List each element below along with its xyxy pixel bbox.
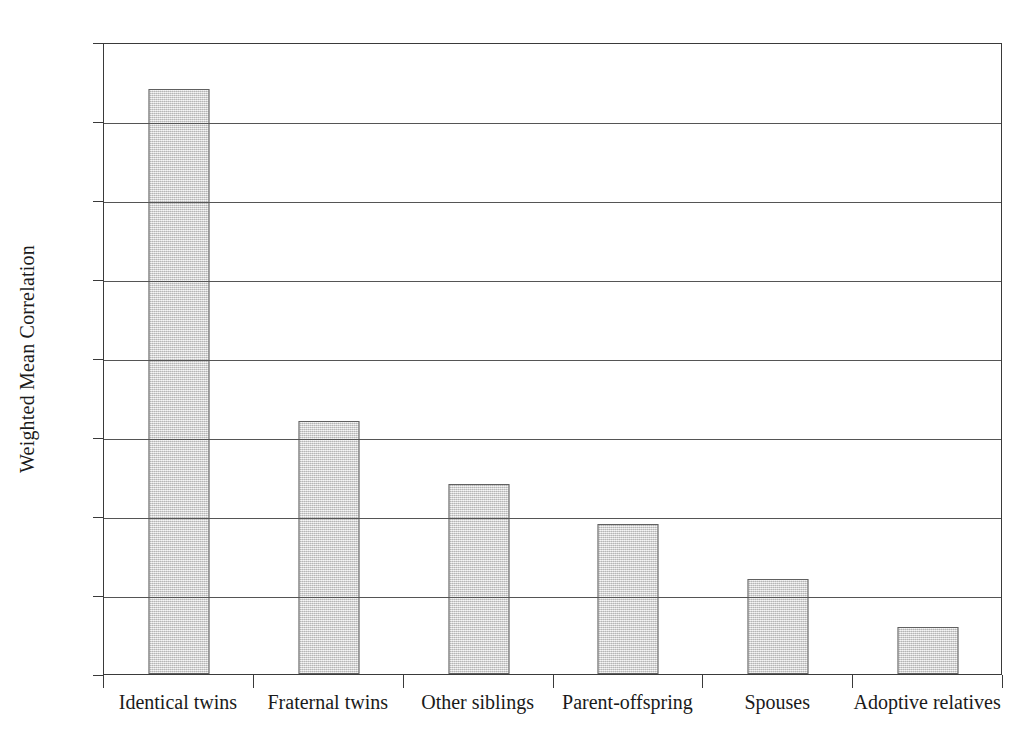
gridline xyxy=(104,281,1001,282)
gridline xyxy=(104,597,1001,598)
y-tick-mark xyxy=(93,517,103,518)
y-tick-mark xyxy=(93,675,103,676)
plot-area xyxy=(103,43,1002,675)
x-tick-label: Parent-offspring xyxy=(562,691,693,714)
x-tick-label: Identical twins xyxy=(119,691,237,714)
bar-slot xyxy=(703,44,853,674)
y-tick-mark xyxy=(93,359,103,360)
x-tick-mark xyxy=(1002,675,1003,688)
x-tick-mark xyxy=(852,675,853,688)
y-axis-title: Weighted Mean Correlation xyxy=(9,29,45,689)
bar-slot xyxy=(104,44,254,674)
bar-slot xyxy=(254,44,404,674)
bar[interactable] xyxy=(748,579,809,674)
bar[interactable] xyxy=(448,484,509,674)
bars-layer xyxy=(104,44,1001,674)
y-tick-mark xyxy=(93,122,103,123)
bar-slot xyxy=(554,44,704,674)
x-tick-mark xyxy=(702,675,703,688)
y-tick-mark xyxy=(93,43,103,44)
x-tick-label: Other siblings xyxy=(421,691,534,714)
x-tick-label: Adoptive relatives xyxy=(853,691,1000,714)
gridline xyxy=(104,123,1001,124)
bar[interactable] xyxy=(148,89,209,674)
x-tick-label: Spouses xyxy=(744,691,810,714)
x-tick-mark xyxy=(553,675,554,688)
x-tick-mark xyxy=(253,675,254,688)
gridline xyxy=(104,202,1001,203)
x-tick-mark xyxy=(403,675,404,688)
y-tick-mark xyxy=(93,201,103,202)
bar[interactable] xyxy=(898,627,959,674)
bar-slot xyxy=(404,44,554,674)
bar-chart-figure: Weighted Mean Correlation 00.10.20.30.40… xyxy=(0,0,1033,736)
bar[interactable] xyxy=(298,421,359,674)
x-tick-mark xyxy=(103,675,104,688)
y-tick-mark xyxy=(93,596,103,597)
bar-slot xyxy=(853,44,1003,674)
bar[interactable] xyxy=(598,524,659,674)
x-tick-label: Fraternal twins xyxy=(267,691,388,714)
y-tick-mark xyxy=(93,280,103,281)
gridline xyxy=(104,360,1001,361)
gridline xyxy=(104,518,1001,519)
gridline xyxy=(104,439,1001,440)
y-tick-mark xyxy=(93,438,103,439)
